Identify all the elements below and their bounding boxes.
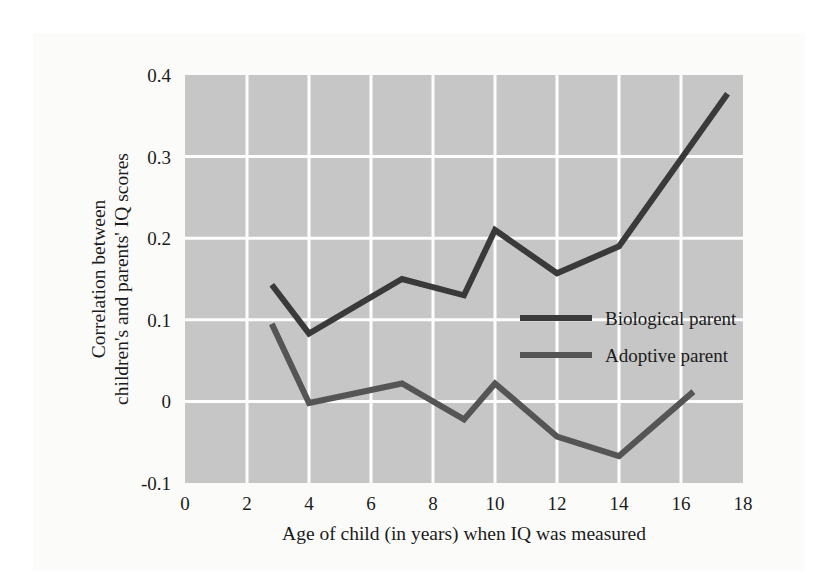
y-tick-label: 0.2 [147,228,171,249]
x-tick-label: 4 [304,493,314,514]
chart-figure: 024681012141618 -0.100.10.20.30.4 Age of… [0,0,831,582]
y-axis-tick-labels: -0.100.10.20.30.4 [141,65,172,494]
x-axis-title: Age of child (in years) when IQ was meas… [282,523,646,545]
x-tick-label: 16 [672,493,691,514]
y-axis-title-line1: Correlation between [88,199,109,358]
x-tick-label: 12 [548,493,567,514]
y-tick-label: 0 [162,391,172,412]
y-tick-label: 0.3 [147,147,171,168]
x-tick-label: 8 [428,493,438,514]
x-tick-label: 10 [486,493,505,514]
x-axis-tick-labels: 024681012141618 [180,493,752,514]
y-tick-label: 0.1 [147,310,171,331]
x-tick-label: 2 [242,493,252,514]
x-tick-label: 14 [610,493,630,514]
x-tick-label: 0 [180,493,190,514]
y-tick-label: 0.4 [147,65,171,86]
y-axis-title-line2: children's and parents' IQ scores [111,153,132,405]
line-chart: 024681012141618 -0.100.10.20.30.4 Age of… [0,0,831,582]
legend-label: Biological parent [605,308,737,329]
plot-wrapper: 024681012141618 -0.100.10.20.30.4 Age of… [0,0,831,582]
x-tick-label: 18 [734,493,753,514]
y-tick-label: -0.1 [141,473,171,494]
legend-label: Adoptive parent [605,345,729,366]
x-tick-label: 6 [366,493,376,514]
